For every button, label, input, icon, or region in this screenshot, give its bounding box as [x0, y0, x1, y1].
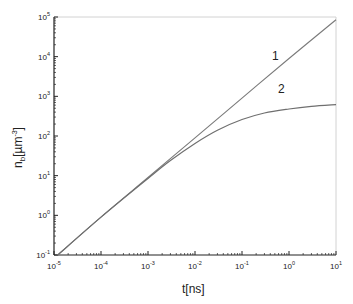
- y-tick-label: 102: [38, 130, 50, 141]
- x-tick-label: 10-1: [235, 260, 249, 271]
- chart: 10-1100101102103104105 10-510-410-310-21…: [0, 0, 353, 304]
- y-tick-label: 101: [38, 170, 50, 181]
- y-tick-label: 103: [38, 90, 50, 101]
- x-tick-label: 101: [330, 260, 342, 271]
- svg-text:nb[µm-3]: nb[µm-3]: [11, 127, 27, 168]
- y-tick-label: 104: [38, 51, 50, 62]
- y-axis-title: nb[µm-3]: [11, 127, 27, 168]
- plot-frame: [54, 17, 336, 255]
- x-tick-label: 100: [283, 260, 295, 271]
- curves: [58, 20, 336, 255]
- axes: 10-1100101102103104105 10-510-410-310-21…: [36, 11, 342, 271]
- x-tick-label: 10-4: [94, 260, 108, 271]
- x-ticks: 10-510-410-310-210-1100101: [47, 251, 342, 271]
- x-axis-title: t[ns]: [182, 282, 205, 296]
- x-tick-label: 10-3: [141, 260, 155, 271]
- y-ticks: 10-1100101102103104105: [36, 11, 58, 260]
- y-tick-label: 105: [38, 11, 50, 22]
- x-tick-label: 10-2: [188, 260, 202, 271]
- curve-2-line: [58, 105, 336, 255]
- curve-1-label: 1: [272, 49, 279, 63]
- curve-2-label: 2: [278, 82, 285, 96]
- y-tick-label: 10-1: [36, 249, 50, 260]
- curve-1-line: [58, 20, 336, 255]
- y-tick-label: 100: [38, 209, 50, 220]
- x-tick-label: 10-5: [47, 260, 61, 271]
